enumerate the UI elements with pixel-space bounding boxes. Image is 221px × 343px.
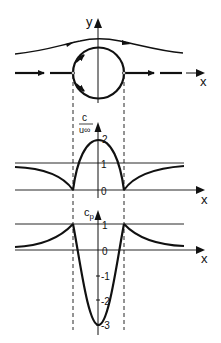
front-stagnation-point [72, 72, 75, 75]
y-axis-label: y [86, 14, 93, 29]
cp-axis-arrow-icon [95, 210, 102, 220]
cp-label: cp [84, 206, 95, 221]
cp-curve-right [124, 224, 184, 246]
cp-label-sub: p [90, 212, 95, 221]
cp-tick-minus-1: -1 [101, 271, 110, 282]
streamline-panel: y x [15, 14, 207, 103]
cp-tick-1: 1 [102, 220, 108, 231]
pressure-coefficient-panel: cp x 1 0 -1 -2 -3 [15, 206, 208, 335]
cylinder-flow-diagram: y x c u∞ x 2 1 0 [0, 0, 221, 343]
x-axis-label: x [200, 74, 207, 89]
velocity-curve-left [15, 167, 73, 190]
tick-0: 0 [101, 186, 107, 197]
cp-tick-0: 0 [102, 246, 108, 257]
velocity-ratio-panel: c u∞ x 2 1 0 [15, 112, 208, 207]
y-axis-arrow-icon [94, 18, 102, 28]
velocity-label-numerator: c [82, 112, 87, 123]
rear-stagnation-point [123, 72, 126, 75]
velocity-curve-right [124, 166, 184, 190]
upper-streamline [15, 39, 183, 54]
streamline-arrow-left-icon [66, 42, 75, 48]
cp-curve-left [15, 224, 73, 247]
velocity-label-denominator: u∞ [79, 125, 90, 135]
velocity-x-label: x [201, 192, 208, 207]
cp-x-label: x [201, 251, 208, 266]
tick-1: 1 [101, 159, 107, 170]
velocity-axis-arrow-icon [95, 122, 102, 132]
